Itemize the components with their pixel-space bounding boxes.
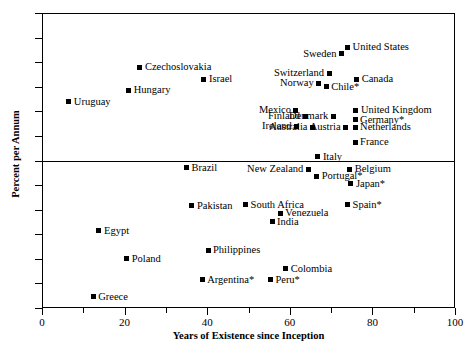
y-axis-tick <box>35 308 42 309</box>
data-point-marker <box>353 140 358 145</box>
data-point-marker <box>327 71 332 76</box>
data-point-label: Brazil <box>192 162 218 173</box>
data-point-marker <box>353 108 358 113</box>
data-point-label: Sweden <box>303 48 336 59</box>
x-axis-tick-label: 60 <box>270 316 310 328</box>
data-point-marker <box>189 203 194 208</box>
data-point-label: Poland <box>132 253 161 264</box>
data-point-label: Israel <box>209 73 232 84</box>
data-point-marker <box>314 174 319 179</box>
x-axis-tick <box>290 308 291 315</box>
data-point-label: Hungary <box>134 84 171 95</box>
data-point-label: Italy <box>323 151 342 162</box>
data-point-marker <box>206 248 211 253</box>
zero-reference-line <box>42 161 455 162</box>
y-axis-tick <box>35 136 42 137</box>
data-point-label: Denmark <box>289 110 328 121</box>
x-axis-tick <box>42 308 43 315</box>
data-point-marker <box>348 181 353 186</box>
data-point-label: Netherlands <box>360 121 411 132</box>
y-axis-tick <box>35 38 42 39</box>
y-axis-title: Percent per Annum <box>10 94 22 214</box>
data-point-marker <box>270 219 275 224</box>
x-axis-tick-label: 80 <box>352 316 392 328</box>
x-axis-tick <box>207 308 208 315</box>
data-point-marker <box>96 228 101 233</box>
x-axis-tick-label: 40 <box>187 316 227 328</box>
data-point-label: Australia <box>269 121 308 132</box>
x-axis-title: Years of Existence since Inception <box>42 330 455 342</box>
data-point-marker <box>126 88 131 93</box>
data-point-marker <box>324 84 329 89</box>
data-point-marker <box>316 81 321 86</box>
data-point-marker <box>339 51 344 56</box>
data-point-label: United States <box>353 41 409 52</box>
y-axis-tick <box>35 13 42 14</box>
y-axis-tick <box>35 210 42 211</box>
x-axis-tick <box>125 308 126 315</box>
x-axis-tick-label: 20 <box>105 316 145 328</box>
data-point-label: Uruguay <box>74 96 111 107</box>
data-point-marker <box>306 167 311 172</box>
data-point-marker <box>315 154 320 159</box>
x-axis-minor-tick <box>414 308 415 313</box>
y-axis-tick <box>35 185 42 186</box>
data-point-label: Colombia <box>291 263 332 274</box>
data-point-label: Chile* <box>331 81 359 92</box>
data-point-marker <box>310 125 315 130</box>
data-point-marker <box>343 125 348 130</box>
data-point-marker <box>201 77 206 82</box>
data-point-label: Spain* <box>353 199 382 210</box>
data-point-marker <box>184 165 189 170</box>
data-point-marker <box>268 277 273 282</box>
data-point-marker <box>283 266 288 271</box>
data-point-label: Greece <box>98 291 128 302</box>
x-axis-minor-tick <box>331 308 332 313</box>
data-point-label: Egypt <box>104 225 129 236</box>
y-axis-tick <box>35 87 42 88</box>
data-point-label: Canada <box>362 73 394 84</box>
x-axis-tick-label: 0 <box>22 316 62 328</box>
y-axis-tick <box>35 62 42 63</box>
y-axis-tick <box>35 283 42 284</box>
data-point-marker <box>200 277 205 282</box>
x-axis-tick-label: 100 <box>435 316 468 328</box>
x-axis-minor-tick <box>83 308 84 313</box>
x-axis-tick <box>372 308 373 315</box>
data-point-marker <box>137 65 142 70</box>
x-axis-minor-tick <box>249 308 250 313</box>
y-axis-tick <box>35 234 42 235</box>
data-point-label: Pakistan <box>197 200 233 211</box>
data-point-label: Czechoslovakia <box>145 61 211 72</box>
data-point-marker <box>353 117 358 122</box>
data-point-label: New Zealand <box>247 163 303 174</box>
data-point-label: Japan* <box>356 178 385 189</box>
y-axis-tick <box>35 259 42 260</box>
data-point-label: Peru* <box>275 274 300 285</box>
data-point-marker <box>243 202 248 207</box>
data-point-label: India <box>277 216 299 227</box>
data-point-marker <box>345 202 350 207</box>
data-point-marker <box>353 125 358 130</box>
x-axis-tick <box>455 308 456 315</box>
data-point-label: France <box>360 136 389 147</box>
data-point-marker <box>66 99 71 104</box>
y-axis-tick <box>35 111 42 112</box>
x-axis-minor-tick <box>166 308 167 313</box>
y-axis-tick <box>35 161 42 162</box>
data-point-label: Philippines <box>213 244 260 255</box>
data-point-label: Norway <box>280 77 314 88</box>
data-point-marker <box>124 256 129 261</box>
data-point-marker <box>91 294 96 299</box>
data-point-marker <box>331 114 336 119</box>
data-point-label: Argentina* <box>207 274 254 285</box>
data-point-marker <box>345 45 350 50</box>
